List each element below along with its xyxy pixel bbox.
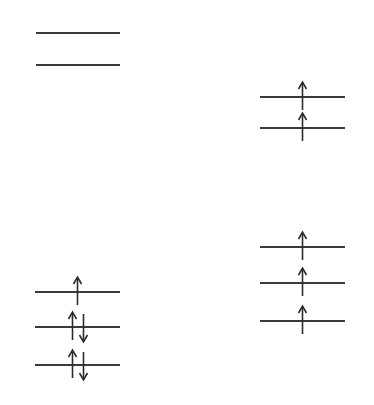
energy-level <box>35 350 120 380</box>
level-group-left-upper <box>36 33 120 65</box>
energy-level <box>35 312 120 342</box>
energy-level <box>260 306 345 334</box>
energy-level <box>35 277 120 305</box>
level-group-right-upper <box>260 82 345 141</box>
orbital-diagram <box>0 0 374 405</box>
level-group-left-lower <box>35 277 120 380</box>
energy-level <box>260 82 345 110</box>
level-group-right-lower <box>260 232 345 334</box>
energy-level <box>260 113 345 141</box>
energy-level <box>260 232 345 260</box>
energy-level <box>260 268 345 296</box>
